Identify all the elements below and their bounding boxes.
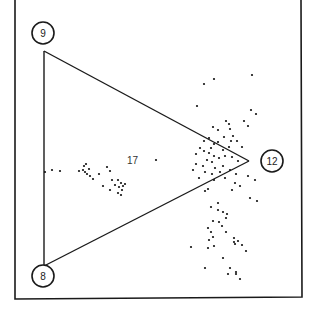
scatter-point <box>235 271 237 273</box>
scatter-point <box>114 184 116 186</box>
scatter-point <box>224 155 226 157</box>
scatter-point <box>59 170 61 172</box>
scatter-point <box>247 125 249 127</box>
scatter-point <box>210 206 212 208</box>
scatter-point <box>256 200 258 202</box>
scatter-point <box>229 169 231 171</box>
scatter-point <box>217 202 219 204</box>
scatter-point <box>221 225 223 227</box>
scatter-point <box>217 129 219 131</box>
scatter-point <box>211 173 213 175</box>
node-9-label: 9 <box>40 28 46 39</box>
scatter-point <box>98 173 100 175</box>
scatter-point <box>195 163 197 165</box>
node-12: 12 <box>261 150 283 172</box>
scatter-point <box>203 140 205 142</box>
scatter-point <box>239 278 241 280</box>
scatter-point <box>232 135 234 137</box>
scatter-point <box>241 244 243 246</box>
scatter-point <box>230 140 232 142</box>
scatter-point <box>85 163 87 165</box>
scatter-point <box>227 273 229 275</box>
scatter-point <box>218 221 220 223</box>
node-9: 9 <box>32 22 54 44</box>
scatter-point <box>250 109 252 111</box>
scatter-point <box>236 140 238 142</box>
scatter-point <box>222 149 224 151</box>
scatter-point <box>229 128 231 130</box>
scatter-point <box>213 78 215 80</box>
scatter-point <box>217 141 219 143</box>
node-8-label: 8 <box>40 271 46 282</box>
scatter-point <box>155 159 157 161</box>
scatter-point <box>118 186 120 188</box>
scatter-point <box>225 120 227 122</box>
scatter-point <box>214 167 216 169</box>
scatter-point <box>199 147 201 149</box>
scatter-point <box>102 185 104 187</box>
scatter-point <box>213 245 215 247</box>
scatter-point <box>225 231 227 233</box>
scatter-point <box>229 267 231 269</box>
scatter-point <box>208 137 210 139</box>
scatter-point <box>213 179 215 181</box>
scatter-point <box>203 150 205 152</box>
scatter-point <box>237 240 239 242</box>
scatter-point <box>82 169 84 171</box>
scatter-point <box>226 213 228 215</box>
scatter-point <box>225 217 227 219</box>
scatter-point <box>224 177 226 179</box>
scatter-point <box>208 239 210 241</box>
scatter-point <box>222 257 224 259</box>
scatter-point <box>203 83 205 85</box>
scatter-point <box>84 171 86 173</box>
scatter-point <box>212 126 214 128</box>
scatter-point <box>206 159 208 161</box>
scatter-point <box>254 179 256 181</box>
scatter-point <box>111 179 113 181</box>
scatter-point <box>213 143 215 145</box>
scatter-point <box>117 192 119 194</box>
scatter-point <box>207 247 209 249</box>
scatter-point <box>83 165 85 167</box>
edge-8-12 <box>44 161 249 266</box>
scatter-point <box>78 170 80 172</box>
scatter-point <box>218 157 220 159</box>
scatter-point <box>235 273 237 275</box>
scatter-point <box>255 113 257 115</box>
scatter-point <box>219 171 221 173</box>
scatter-point <box>222 211 224 213</box>
scatter-point <box>196 105 198 107</box>
scatter-point <box>231 156 233 158</box>
scatter-point <box>228 146 230 148</box>
scatter-point <box>109 189 111 191</box>
scatter-point <box>207 227 209 229</box>
node-12-label: 12 <box>266 156 278 167</box>
scatter-point <box>237 160 239 162</box>
scatter-point <box>211 161 213 163</box>
scatter-point <box>88 168 90 170</box>
node-8: 8 <box>32 265 54 287</box>
scatter-point <box>124 183 126 185</box>
diagram-canvas: 17 9 8 12 <box>0 0 310 314</box>
scatter-point <box>120 182 122 184</box>
scatter-point <box>233 241 235 243</box>
scatter-point <box>212 236 214 238</box>
scatter-point <box>223 136 225 138</box>
scatter-point <box>235 173 237 175</box>
scatter-point <box>195 153 197 155</box>
edge-9-12 <box>44 51 249 161</box>
scatter-point <box>192 169 194 171</box>
scatter-point <box>222 165 224 167</box>
scatter-point <box>233 237 235 239</box>
scatter-point <box>92 178 94 180</box>
scatter-point <box>51 169 53 171</box>
scatter-point <box>213 155 215 157</box>
scatter-point <box>247 175 249 177</box>
scatter-point <box>86 173 88 175</box>
scatter-point <box>204 190 206 192</box>
scatter-point <box>249 197 251 199</box>
scatter-point <box>89 175 91 177</box>
scatter-point <box>198 177 200 179</box>
scatter-point <box>217 209 219 211</box>
